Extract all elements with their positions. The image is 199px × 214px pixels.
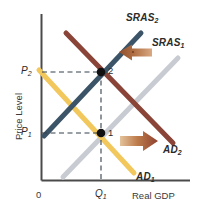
chart-canvas — [0, 0, 199, 214]
point-label-1: 1 — [108, 128, 113, 138]
curve-ad1-base: AD — [136, 171, 151, 182]
tick-p2-base: P — [21, 65, 28, 76]
curve-ad2 — [66, 33, 173, 143]
curve-sras2-sub: 2 — [155, 17, 159, 24]
tick-q1-sub: 1 — [103, 193, 107, 200]
tick-p2-sub: 2 — [28, 70, 32, 77]
tick-p1-base: P — [21, 126, 28, 137]
aggregate-supply-demand-diagram: Price Level Real GDP 0 P2 P1 Q1 SRAS2 SR… — [0, 0, 199, 214]
equilibrium-point-2 — [97, 68, 106, 77]
curve-sras1-base: SRAS — [152, 37, 181, 48]
curve-sras1-sub: 1 — [181, 42, 185, 49]
x-axis-title: Real GDP — [132, 191, 175, 201]
curve-ad2-base: AD — [163, 144, 178, 155]
curve-label-ad1: AD1 — [136, 172, 155, 182]
curve-label-ad2: AD2 — [163, 145, 182, 155]
tick-q1-base: Q — [95, 188, 103, 199]
point-label-2: 2 — [108, 66, 113, 76]
sras-shift-arrow — [119, 45, 152, 61]
origin-label: 0 — [36, 190, 41, 200]
tick-label-p2: P2 — [21, 66, 32, 76]
curve-ad1-sub: 1 — [151, 176, 155, 183]
tick-label-p1: P1 — [21, 127, 32, 137]
curve-label-sras2: SRAS2 — [126, 13, 159, 23]
tick-p1-sub: 1 — [28, 131, 32, 138]
ad-shift-arrow — [120, 131, 158, 151]
curve-label-sras1: SRAS1 — [152, 38, 185, 48]
curve-sras2-base: SRAS — [126, 12, 155, 23]
tick-label-q1: Q1 — [95, 189, 107, 199]
curve-ad2-sub: 2 — [178, 149, 182, 156]
equilibrium-point-1 — [97, 129, 106, 138]
